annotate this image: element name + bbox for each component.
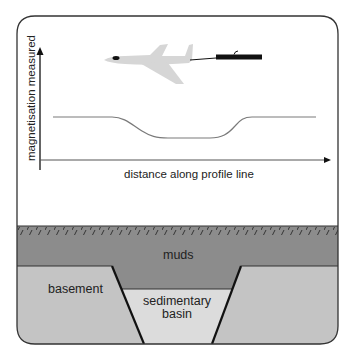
muds-label: muds xyxy=(163,248,194,262)
y-axis-label: magnetisation measured xyxy=(25,35,37,161)
magnetic-survey-diagram: magnetisation measured distance along pr… xyxy=(0,0,355,359)
x-axis-label: distance along profile line xyxy=(124,168,254,180)
basement-label: basement xyxy=(48,282,103,296)
basin-label-line2: basin xyxy=(162,307,192,321)
basin-label-line1: sedimentary xyxy=(143,294,212,308)
ground-surface-hatch xyxy=(17,227,338,235)
magnetometer-icon xyxy=(216,55,262,60)
